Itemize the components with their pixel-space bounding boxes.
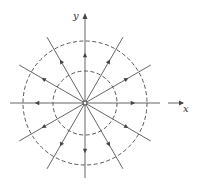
radial-field-diagram	[0, 0, 199, 190]
field-lines	[10, 18, 160, 178]
field-line	[85, 37, 123, 103]
field-line	[85, 103, 151, 141]
outward-arrow-icon	[83, 53, 87, 57]
outward-arrow-icon	[83, 149, 87, 153]
field-line	[19, 65, 85, 103]
x-axis-label: x	[183, 104, 189, 114]
field-line	[85, 103, 123, 169]
y-axis-label: y	[73, 11, 79, 21]
origin-point	[83, 101, 87, 105]
outward-arrow-icon	[131, 101, 135, 105]
y-axis-arrow	[83, 13, 88, 19]
x-axis-arrow	[168, 101, 184, 106]
field-line	[47, 37, 85, 103]
field-line	[19, 103, 85, 141]
outward-arrow-icon	[35, 101, 39, 105]
field-line	[85, 65, 151, 103]
field-line	[47, 103, 85, 169]
